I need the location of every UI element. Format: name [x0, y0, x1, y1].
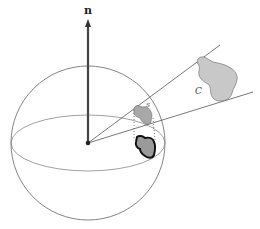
normal-arrowhead-icon — [85, 19, 91, 27]
projected-patch-label: s — [146, 100, 150, 109]
normal-label: n — [84, 4, 92, 17]
origin-point — [86, 141, 91, 146]
diagram-svg — [0, 0, 260, 229]
surface-patch — [197, 57, 237, 101]
cone-lower-ray — [88, 92, 253, 143]
surface-patch-label: C — [195, 86, 202, 96]
diagram-canvas: n s C — [0, 0, 260, 229]
shadow-patch — [136, 136, 155, 158]
